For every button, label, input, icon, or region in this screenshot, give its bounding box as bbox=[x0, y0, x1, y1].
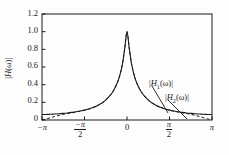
annotation-h2-tail: (ω)| bbox=[176, 92, 189, 102]
annotation-h2-label: |H2(ω)| bbox=[165, 93, 189, 104]
x-tick-pi-glyph: π bbox=[210, 122, 214, 132]
annotation-h1-tail: (ω)| bbox=[160, 78, 173, 88]
x-tick-label-pi: π bbox=[202, 123, 222, 132]
x-tick-label-neg-pi-over-2: −π 2 bbox=[69, 120, 91, 138]
x-tick-label-pi-over-2: π 2 bbox=[158, 120, 180, 138]
axes-frame bbox=[42, 14, 212, 120]
y-tick-label-0-6: 0.6 bbox=[10, 61, 38, 70]
annotation-h1-label: |H1(ω)| bbox=[149, 79, 173, 90]
data-curves bbox=[42, 32, 212, 120]
curve-h2-dashed bbox=[42, 32, 212, 120]
fraction-pi-2: π 2 bbox=[166, 120, 172, 138]
axes-border bbox=[42, 14, 212, 120]
y-tick-label-1-2: 1.2 bbox=[10, 9, 38, 18]
y-tick-marks bbox=[42, 14, 46, 120]
y-tick-label-0-2: 0.2 bbox=[10, 96, 38, 105]
x-tick-neg-pi-glyph: −π bbox=[37, 122, 47, 132]
y-tick-label-1-0: 1.0 bbox=[10, 26, 38, 35]
x-tick-label-zero: 0 bbox=[117, 123, 137, 132]
annotation-h1-head: |H bbox=[149, 78, 157, 88]
y-tick-label-0-8: 0.8 bbox=[10, 44, 38, 53]
y-tick-label-0: 0 bbox=[10, 114, 38, 123]
fraction-denominator: 2 bbox=[74, 130, 86, 139]
x-tick-label-neg-pi: −π bbox=[32, 123, 52, 132]
annotation-h2-head: |H bbox=[165, 92, 173, 102]
y-tick-label-0-4: 0.4 bbox=[10, 79, 38, 88]
figure-frequency-response: |H(ω)| 0 0.2 0.4 0.6 0.8 1.0 1.2 −π −π 2… bbox=[0, 0, 229, 155]
fraction-neg-pi-2: −π 2 bbox=[74, 120, 86, 138]
fraction-denominator: 2 bbox=[166, 130, 172, 139]
